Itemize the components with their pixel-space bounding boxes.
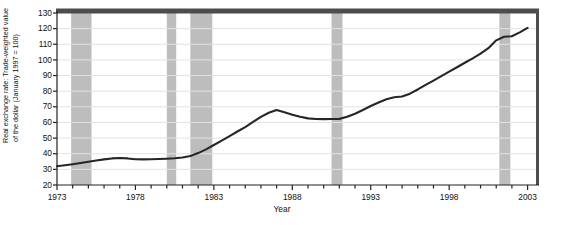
recession-band [332,13,343,185]
plot-area [0,0,569,225]
x-axis-ticks [57,185,528,190]
recession-band [190,13,212,185]
recession-band [71,13,91,185]
chart-figure: Real exchange rate: Trade-weighted value… [0,0,569,225]
